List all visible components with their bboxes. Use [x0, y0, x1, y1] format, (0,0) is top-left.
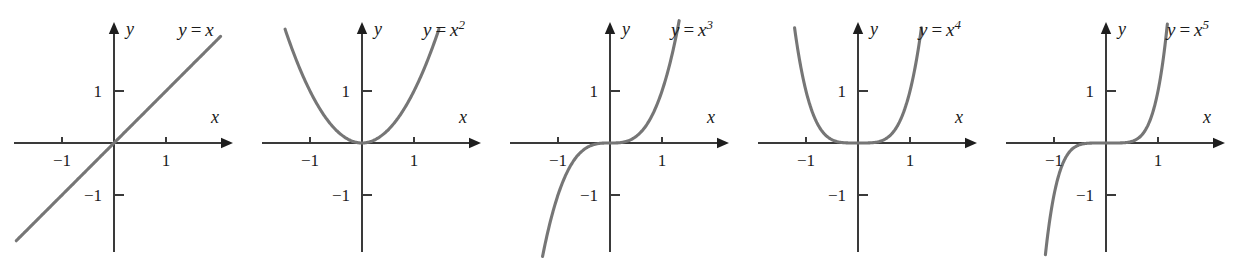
x-tick-label-neg-one: −1: [549, 151, 567, 170]
y-tick-label-neg-one: −1: [1076, 186, 1094, 205]
x-axis-label: x: [706, 107, 715, 127]
equation-equals-sign: =: [435, 19, 446, 40]
y-axis-arrow-icon: [853, 22, 863, 34]
plot-canvas: −111−1xyy=x: [0, 0, 248, 268]
x-axis-label: x: [954, 107, 963, 127]
equation-y: y: [1165, 19, 1176, 40]
x-tick-label-pos-one: 1: [1154, 151, 1163, 170]
plot-canvas: −111−1xyy=x4: [744, 0, 992, 268]
curve-equation-label: y=x5: [1165, 17, 1210, 40]
x-axis-label: x: [1202, 107, 1211, 127]
x-axis-arrow-icon: [469, 138, 481, 148]
y-axis-label: y: [868, 19, 878, 39]
x-axis-arrow-icon: [717, 138, 729, 148]
equation-exponent: 5: [1203, 17, 1210, 32]
y-axis-arrow-icon: [605, 22, 615, 34]
y-axis-label: y: [620, 19, 630, 39]
y-axis-label: y: [372, 19, 382, 39]
x-axis-arrow-icon: [221, 138, 233, 148]
panel-y-equals-x: −111−1xyy=x: [0, 0, 248, 268]
panel-y-equals-x-fourth: −111−1xyy=x4: [744, 0, 992, 268]
equation-exponent: 4: [955, 17, 962, 32]
equation-equals-sign: =: [931, 19, 942, 40]
x-tick-label-neg-one: −1: [1045, 151, 1063, 170]
y-tick-label-pos-one: 1: [1086, 82, 1095, 101]
y-tick-label-neg-one: −1: [828, 186, 846, 205]
equation-base: x: [204, 19, 214, 40]
plot-canvas: −111−1xyy=x2: [248, 0, 496, 268]
y-tick-label-pos-one: 1: [838, 82, 847, 101]
x-tick-label-pos-one: 1: [658, 151, 667, 170]
y-tick-label-pos-one: 1: [342, 82, 351, 101]
equation-equals-sign: =: [191, 19, 202, 40]
equation-equals-sign: =: [1179, 19, 1190, 40]
function-curve: [16, 36, 220, 240]
y-tick-label-neg-one: −1: [332, 186, 350, 205]
x-axis-label: x: [210, 107, 219, 127]
equation-y: y: [176, 19, 187, 40]
curve-equation-label: y=x3: [669, 17, 714, 40]
y-axis-label: y: [1116, 19, 1126, 39]
y-axis-label: y: [124, 19, 134, 39]
x-axis-arrow-icon: [965, 138, 977, 148]
curve-equation-label: y=x4: [917, 17, 962, 40]
y-tick-label-pos-one: 1: [590, 82, 599, 101]
equation-y: y: [917, 19, 928, 40]
power-function-figure-row: −111−1xyy=x−111−1xyy=x2−111−1xyy=x3−111−…: [0, 0, 1240, 268]
equation-exponent: 3: [706, 17, 714, 32]
x-tick-label-pos-one: 1: [162, 151, 171, 170]
y-axis-arrow-icon: [109, 22, 119, 34]
plot-canvas: −111−1xyy=x3: [496, 0, 744, 268]
y-tick-label-pos-one: 1: [94, 82, 103, 101]
curve-equation-label: y=x: [176, 19, 214, 40]
curve-equation-label: y=x2: [421, 17, 466, 40]
x-tick-label-neg-one: −1: [53, 151, 71, 170]
x-tick-label-neg-one: −1: [797, 151, 815, 170]
x-axis-arrow-icon: [1213, 138, 1225, 148]
x-tick-label-pos-one: 1: [410, 151, 419, 170]
y-tick-label-neg-one: −1: [84, 186, 102, 205]
panel-y-equals-x-fifth: −111−1xyy=x5: [992, 0, 1240, 268]
equation-exponent: 2: [459, 17, 466, 32]
panel-y-equals-x-cubed: −111−1xyy=x3: [496, 0, 744, 268]
y-axis-arrow-icon: [357, 22, 367, 34]
equation-equals-sign: =: [683, 19, 694, 40]
x-tick-label-neg-one: −1: [301, 151, 319, 170]
x-axis-label: x: [458, 107, 467, 127]
plot-canvas: −111−1xyy=x5: [992, 0, 1240, 268]
y-axis-arrow-icon: [1101, 22, 1111, 34]
x-tick-label-pos-one: 1: [906, 151, 915, 170]
equation-y: y: [669, 19, 680, 40]
panel-y-equals-x-squared: −111−1xyy=x2: [248, 0, 496, 268]
equation-y: y: [421, 19, 432, 40]
function-curve: [543, 21, 680, 257]
y-tick-label-neg-one: −1: [580, 186, 598, 205]
